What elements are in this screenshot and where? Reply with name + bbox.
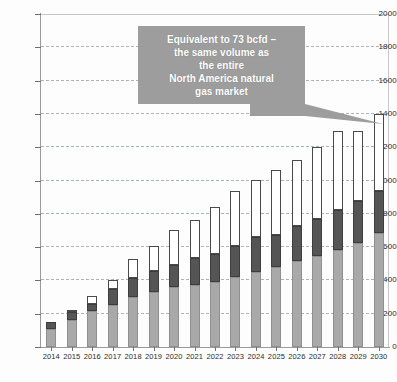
x-tick-label-2029: 2029 <box>348 352 368 361</box>
bar-2022 <box>210 207 220 347</box>
bar-segment-middle-segment <box>108 289 118 305</box>
bar-segment-top-segment <box>149 246 159 271</box>
x-tick-label-2023: 2023 <box>225 352 245 361</box>
x-tick-mark <box>113 347 114 351</box>
x-axis: 2014201520162017201820192020202120222023… <box>41 352 389 370</box>
x-tick-label-2022: 2022 <box>205 352 225 361</box>
bar-segment-middle-segment <box>251 237 261 272</box>
bar-segment-base-segment <box>353 243 363 347</box>
x-tick-label-2021: 2021 <box>184 352 204 361</box>
bar-segment-top-segment <box>128 259 138 278</box>
x-tick-mark <box>154 347 155 351</box>
bar-segment-top-segment <box>190 220 200 257</box>
bar-segment-top-segment <box>210 207 220 254</box>
x-tick-mark <box>297 347 298 351</box>
bar-segment-base-segment <box>87 311 97 347</box>
bar-2019 <box>149 246 159 347</box>
x-tick-mark <box>338 347 339 351</box>
bar-segment-middle-segment <box>374 191 384 233</box>
x-tick-mark <box>174 347 175 351</box>
bar-segment-base-segment <box>292 261 302 347</box>
x-tick-label-2019: 2019 <box>143 352 163 361</box>
x-tick-label-2016: 2016 <box>82 352 102 361</box>
x-tick-mark <box>358 347 359 351</box>
bar-segment-middle-segment <box>292 226 302 261</box>
x-tick-label-2018: 2018 <box>123 352 143 361</box>
bar-segment-base-segment <box>374 233 384 347</box>
bar-segment-base-segment <box>230 277 240 347</box>
bar-segment-base-segment <box>46 329 56 347</box>
bar-segment-middle-segment <box>128 278 138 297</box>
x-tick-mark <box>379 347 380 351</box>
bar-segment-base-segment <box>108 305 118 347</box>
x-tick-label-2025: 2025 <box>266 352 286 361</box>
bar-segment-top-segment <box>292 160 302 227</box>
x-tick-label-2030: 2030 <box>369 352 389 361</box>
bar-segment-middle-segment <box>46 322 56 329</box>
bar-2024 <box>251 180 261 347</box>
x-tick-mark <box>317 347 318 351</box>
x-tick-label-2015: 2015 <box>61 352 81 361</box>
bar-segment-middle-segment <box>169 265 179 287</box>
bar-2027 <box>312 147 322 347</box>
bar-segment-top-segment <box>169 230 179 264</box>
bar-segment-middle-segment <box>271 235 281 267</box>
x-tick-mark <box>256 347 257 351</box>
bar-segment-middle-segment <box>149 271 159 292</box>
bar-segment-top-segment <box>251 180 261 237</box>
bar-segment-base-segment <box>312 256 322 347</box>
bar-2023 <box>230 191 240 347</box>
bar-segment-middle-segment <box>230 246 240 277</box>
bar-segment-top-segment <box>333 131 343 210</box>
x-tick-mark <box>51 347 52 351</box>
bar-segment-top-segment <box>108 280 118 289</box>
bar-segment-base-segment <box>251 272 261 347</box>
x-tick-label-2014: 2014 <box>41 352 61 361</box>
bar-segment-base-segment <box>67 320 77 347</box>
x-tick-label-2028: 2028 <box>328 352 348 361</box>
bar-2026 <box>292 160 302 347</box>
bar-segment-middle-segment <box>353 201 363 243</box>
bar-2030 <box>374 114 384 347</box>
bar-2014 <box>46 322 56 347</box>
bar-segment-base-segment <box>271 267 281 347</box>
bar-segment-top-segment <box>312 147 322 219</box>
bar-segment-top-segment <box>271 170 281 235</box>
callout-annotation: Equivalent to 73 bcfd – the same volume … <box>138 26 305 104</box>
bar-segment-top-segment <box>87 296 97 303</box>
callout-text: Equivalent to 73 bcfd – the same volume … <box>161 33 282 98</box>
x-tick-mark <box>92 347 93 351</box>
bar-segment-middle-segment <box>87 304 97 311</box>
stacked-bar-chart: 0200400600800100012001400160018002000 20… <box>0 0 397 382</box>
bar-segment-base-segment <box>333 250 343 347</box>
x-tick-label-2020: 2020 <box>164 352 184 361</box>
bar-2016 <box>87 296 97 347</box>
x-tick-mark <box>215 347 216 351</box>
bar-segment-middle-segment <box>333 210 343 251</box>
bar-segment-base-segment <box>169 287 179 347</box>
bar-segment-base-segment <box>210 282 220 347</box>
x-tick-label-2027: 2027 <box>307 352 327 361</box>
bar-segment-top-segment <box>67 310 77 312</box>
bar-segment-middle-segment <box>210 254 220 282</box>
bar-segment-top-segment <box>353 131 363 202</box>
bar-segment-top-segment <box>374 114 384 191</box>
bar-2029 <box>353 131 363 347</box>
x-tick-label-2024: 2024 <box>246 352 266 361</box>
bar-2020 <box>169 230 179 347</box>
x-tick-mark <box>72 347 73 351</box>
bar-segment-middle-segment <box>312 219 322 256</box>
bar-2017 <box>108 280 118 347</box>
x-tick-label-2017: 2017 <box>102 352 122 361</box>
y-tick-mark <box>35 347 41 348</box>
x-tick-label-2026: 2026 <box>287 352 307 361</box>
bar-segment-top-segment <box>230 191 240 246</box>
bar-2015 <box>67 310 77 347</box>
bar-2025 <box>271 170 281 347</box>
x-tick-mark <box>133 347 134 351</box>
x-tick-mark <box>195 347 196 351</box>
bar-segment-middle-segment <box>67 312 77 320</box>
bar-2028 <box>333 131 343 347</box>
bar-2021 <box>190 220 200 347</box>
bar-segment-base-segment <box>190 285 200 347</box>
